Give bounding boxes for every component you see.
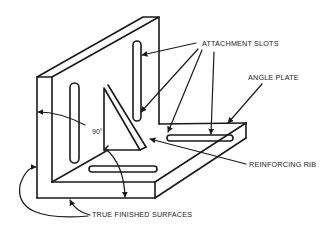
label-attachment-slots: ATTACHMENT SLOTS	[202, 40, 279, 47]
slot-vertical-right	[133, 41, 141, 121]
attachment-slots	[70, 41, 233, 172]
slot-base-front	[89, 166, 157, 172]
label-90-degrees: 90°	[92, 128, 103, 135]
angle-plate-diagram	[0, 0, 328, 232]
label-angle-plate: ANGLE PLATE	[248, 74, 299, 81]
reinforcing-rib	[104, 85, 146, 150]
label-true-finished-surfaces: TRUE FINISHED SURFACES	[92, 211, 192, 218]
slot-vertical-left	[70, 83, 79, 163]
label-reinforcing-rib: REINFORCING RIB	[249, 161, 316, 168]
